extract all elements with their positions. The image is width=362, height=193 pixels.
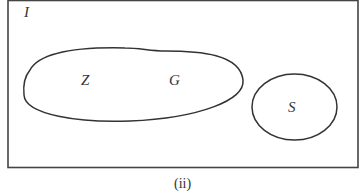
set-z-g-region — [24, 48, 243, 121]
figure-caption: (ii) — [174, 176, 191, 192]
venn-diagram: I Z G S (ii) — [0, 0, 362, 193]
universe-label: I — [23, 4, 30, 20]
universe-rectangle — [8, 1, 358, 168]
set-label-g: G — [169, 72, 180, 88]
set-label-z: Z — [81, 72, 90, 88]
set-label-s: S — [288, 99, 296, 115]
